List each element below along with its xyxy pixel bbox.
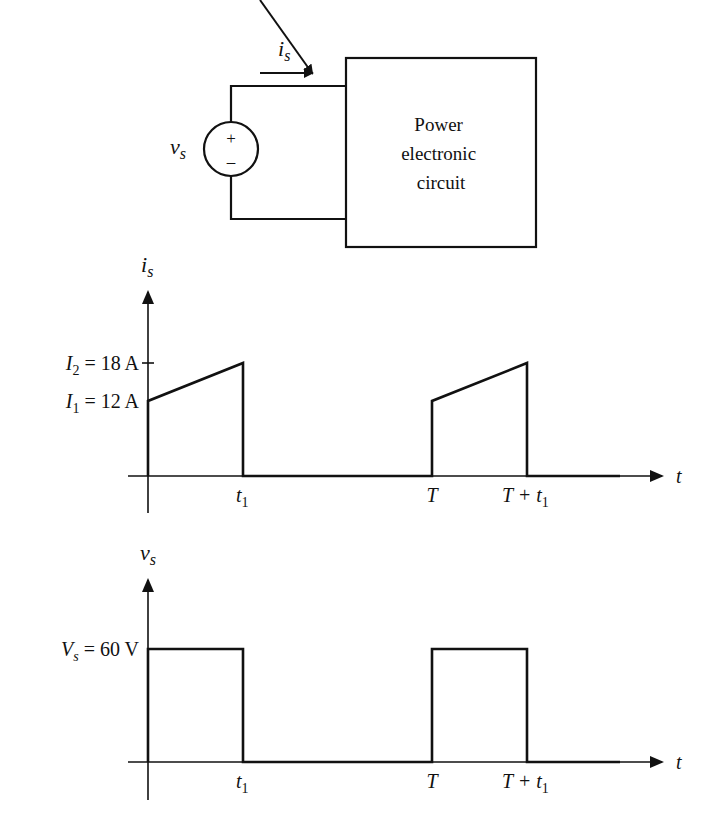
i1-level-label: I1 = 12 A (65, 390, 140, 416)
figure: + – vs is Power electronic circuit is t … (0, 0, 716, 833)
voltage-waveform (148, 649, 620, 762)
tick-T-plus-t1: T + t1 (502, 484, 549, 510)
current-waveform (148, 363, 620, 476)
x-axis-label: t (676, 465, 682, 487)
i2-level-label: I2 = 18 A (65, 352, 140, 378)
source-plus: + (226, 129, 236, 148)
top-wire (231, 86, 346, 122)
y-axis-label: is (141, 252, 153, 280)
source-minus: – (226, 152, 236, 171)
vs-level-label: Vs = 60 V (61, 638, 140, 664)
tick-T: T (426, 770, 439, 792)
tick-t1: t1 (236, 484, 249, 510)
y-axis-label: vs (140, 540, 156, 568)
x-axis-label: t (676, 751, 682, 773)
box-label: Power electronic circuit (401, 114, 481, 193)
source-label: vs (170, 134, 186, 162)
bottom-wire (231, 176, 346, 219)
tick-T: T (426, 484, 439, 506)
tick-t1: t1 (236, 770, 249, 796)
circuit-diagram: + – vs is Power electronic circuit (170, 0, 536, 247)
current-waveform-plot: is t I2 = 18 A I1 = 12 A t1 T T + t1 (65, 252, 682, 513)
tick-T-plus-t1: T + t1 (502, 770, 549, 796)
voltage-waveform-plot: vs t Vs = 60 V t1 T T + t1 (61, 540, 682, 800)
